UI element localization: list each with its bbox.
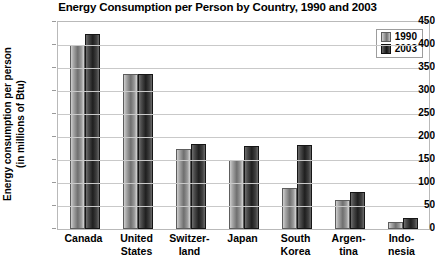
gridline (58, 137, 429, 138)
gridline (58, 206, 429, 207)
gridline (58, 114, 429, 115)
x-axis-labels: CanadaUnitedStatesSwitzer-landJapanSouth… (57, 232, 428, 258)
bar-pair (335, 22, 365, 229)
x-axis-tick-label: Japan (216, 232, 269, 258)
bar-2003 (85, 34, 100, 230)
bar-group (217, 22, 270, 229)
y-axis-tick-label: 100 (385, 177, 435, 187)
gridline (58, 183, 429, 184)
x-axis-tick-label: Canada (57, 232, 110, 258)
bar-group (58, 22, 111, 229)
bar-group (270, 22, 323, 229)
y-axis-tick-label: 50 (385, 200, 435, 210)
y-axis-tick-label: 450 (385, 16, 435, 26)
y-axis-tick-label: 400 (385, 39, 435, 49)
gridline (58, 160, 429, 161)
x-axis-tick-label: UnitedStates (110, 232, 163, 258)
y-axis-tick-mark (52, 44, 56, 45)
y-axis-tick-mark (52, 182, 56, 183)
y-axis-title: Energy consumption per person(in million… (1, 47, 27, 201)
bar-group (111, 22, 164, 229)
y-axis-tick-label: 200 (385, 131, 435, 141)
y-axis-tick-mark (52, 205, 56, 206)
gridline (58, 68, 429, 69)
y-axis-tick-mark (52, 21, 56, 22)
bar-1990 (282, 188, 297, 229)
bar-pair (229, 22, 259, 229)
chart-title: Energy Consumption per Person by Country… (0, 1, 435, 13)
y-axis-tick-label: 350 (385, 62, 435, 72)
bar-pair (70, 22, 100, 229)
bar-pair (282, 22, 312, 229)
y-axis-tick-label: 150 (385, 154, 435, 164)
gridline (58, 91, 429, 92)
gridline (58, 45, 429, 46)
x-axis-tick-label: Argen-tina (322, 232, 375, 258)
bar-2003 (191, 144, 206, 229)
bar-1990 (335, 200, 350, 229)
bar-groups (58, 22, 429, 229)
x-axis-tick-label: Indo-nesia (375, 232, 428, 258)
x-axis-tick-label: Switzer-land (163, 232, 216, 258)
bar-2003 (297, 145, 312, 229)
bar-2003 (350, 192, 365, 229)
x-axis-tick-label: SouthKorea (269, 232, 322, 258)
y-axis-tick-mark (52, 90, 56, 91)
bar-pair (123, 22, 153, 229)
y-axis-tick-mark (52, 228, 56, 229)
bar-1990 (229, 160, 244, 229)
bar-group (323, 22, 376, 229)
bar-2003 (244, 146, 259, 229)
y-axis-tick-mark (52, 113, 56, 114)
y-axis-tick-label: 250 (385, 108, 435, 118)
y-axis-tick-mark (52, 136, 56, 137)
plot-area: 1990 2003 (57, 21, 430, 230)
y-axis-tick-label: 300 (385, 85, 435, 95)
y-axis-tick-mark (52, 67, 56, 68)
y-axis-tick-mark (52, 159, 56, 160)
bar-pair (176, 22, 206, 229)
bar-group (164, 22, 217, 229)
y-axis-title-container: Energy consumption per person(in million… (0, 18, 29, 230)
bar-chart: Energy Consumption per Person by Country… (0, 0, 435, 276)
